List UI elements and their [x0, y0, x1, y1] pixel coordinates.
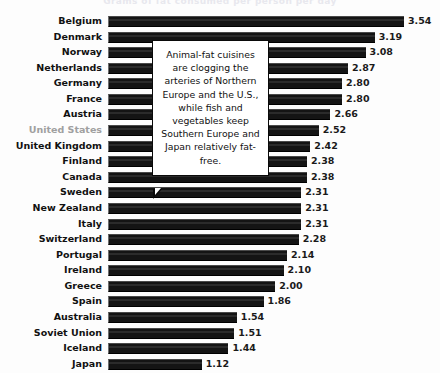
category-label: Portugal [0, 249, 102, 260]
category-label: Finland [0, 155, 102, 166]
category-label: United Kingdom [0, 140, 102, 151]
bar-value-label: 1.44 [232, 342, 255, 354]
category-label: Canada [0, 171, 102, 182]
table-row: Ireland2.10 [0, 264, 440, 280]
category-label: Germany [0, 77, 102, 88]
bar-value-label: 2.31 [305, 202, 328, 214]
bar [108, 359, 202, 370]
category-label: Soviet Union [0, 327, 102, 338]
bar-value-label: 2.38 [311, 155, 334, 167]
table-row: Iceland1.44 [0, 342, 440, 358]
category-label: New Zealand [0, 202, 102, 213]
bar-value-label: 2.80 [346, 93, 369, 105]
fat-consumption-bar-chart: Grams of fat consumed per person per day… [0, 0, 440, 373]
bar-value-label: 1.54 [241, 311, 264, 323]
bar-value-label: 2.31 [305, 218, 328, 230]
table-row: Japan1.12 [0, 358, 440, 373]
category-label: Japan [0, 358, 102, 369]
bar-value-label: 2.28 [303, 233, 326, 245]
category-label: Spain [0, 295, 102, 306]
table-row: Spain1.86 [0, 295, 440, 311]
annotation-callout-text: Animal-fat cuisines are clogging the art… [160, 48, 261, 167]
bar [108, 312, 237, 323]
bar [108, 234, 299, 245]
bar-value-label: 3.54 [408, 15, 431, 27]
category-label: Sweden [0, 186, 102, 197]
category-label: Belgium [0, 15, 102, 26]
category-label: Norway [0, 46, 102, 57]
bar-value-label: 1.51 [238, 327, 261, 339]
bar-value-label: 3.19 [379, 31, 402, 43]
category-label: Italy [0, 218, 102, 229]
bar-value-label: 1.12 [206, 358, 229, 370]
bar-value-label: 2.38 [311, 171, 334, 183]
bar [108, 187, 301, 198]
bar-value-label: 2.80 [346, 77, 369, 89]
category-label: Australia [0, 311, 102, 322]
category-label: France [0, 93, 102, 104]
bar-value-label: 2.66 [334, 108, 357, 120]
bar [108, 219, 301, 230]
bar [108, 250, 287, 261]
bar-value-label: 2.52 [323, 124, 346, 136]
table-row: Belgium3.54 [0, 15, 440, 31]
bar-value-label: 1.86 [268, 295, 291, 307]
bar-value-label: 2.14 [291, 249, 314, 261]
table-row: Australia1.54 [0, 311, 440, 327]
annotation-callout-tail-fill-icon [155, 188, 161, 195]
chart-title-clipped: Grams of fat consumed per person per day [0, 0, 440, 6]
table-row: New Zealand2.31 [0, 202, 440, 218]
table-row: Soviet Union1.51 [0, 327, 440, 343]
bar-value-label: 2.42 [314, 140, 337, 152]
bar [108, 328, 234, 339]
category-label: Austria [0, 108, 102, 119]
table-row: Sweden2.31 [0, 186, 440, 202]
bar [108, 296, 264, 307]
table-row: Greece2.00 [0, 280, 440, 296]
bar-value-label: 2.10 [288, 264, 311, 276]
category-label: Switzerland [0, 233, 102, 244]
category-label: Iceland [0, 342, 102, 353]
table-row: Switzerland2.28 [0, 233, 440, 249]
bar [108, 265, 284, 276]
bar-value-label: 2.31 [305, 186, 328, 198]
category-label: United States [0, 124, 102, 135]
bar [108, 16, 404, 27]
bar-value-label: 2.00 [279, 280, 302, 292]
annotation-callout: Animal-fat cuisines are clogging the art… [152, 40, 269, 176]
table-row: Italy2.31 [0, 218, 440, 234]
category-label: Denmark [0, 31, 102, 42]
table-row: Portugal2.14 [0, 249, 440, 265]
category-label: Greece [0, 280, 102, 291]
bar [108, 281, 275, 292]
category-label: Ireland [0, 264, 102, 275]
bar [108, 343, 228, 354]
bar-value-label: 2.87 [352, 62, 375, 74]
bar [108, 203, 301, 214]
category-label: Netherlands [0, 62, 102, 73]
bar-value-label: 3.08 [370, 46, 393, 58]
